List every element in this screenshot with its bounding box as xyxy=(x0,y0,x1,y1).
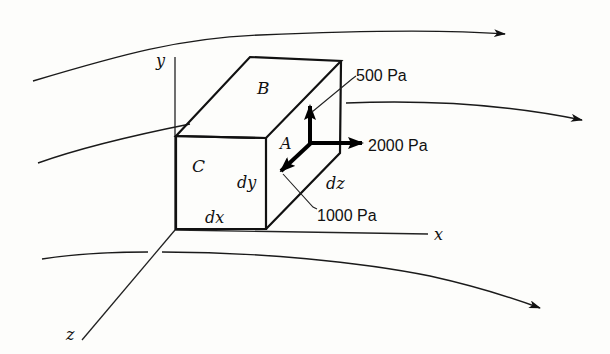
leader-1000 xyxy=(283,174,317,209)
dim-label-width: dx xyxy=(205,208,224,227)
force-label-z: 1000 Pa xyxy=(317,207,377,224)
dim-label-height: dy xyxy=(237,173,257,192)
x-axis xyxy=(175,230,428,234)
face-label-right: A xyxy=(278,134,292,153)
diagram-canvas: B C A dy dx dz y x z 500 Pa 2000 Pa 1000… xyxy=(0,0,610,354)
diagram-svg: B C A dy dx dz y x z 500 Pa 2000 Pa 1000… xyxy=(0,0,610,354)
axis-label-z: z xyxy=(65,325,75,344)
dim-label-depth: dz xyxy=(326,174,345,193)
force-label-y: 500 Pa xyxy=(356,67,407,84)
face-label-front: C xyxy=(192,156,205,176)
streamline-middle-left xyxy=(38,124,190,163)
axis-label-x: x xyxy=(434,225,443,244)
streamline-top xyxy=(33,31,505,81)
z-axis xyxy=(82,230,175,340)
streamline-bottom-right xyxy=(162,252,540,308)
streamlines xyxy=(33,31,582,308)
leader-500 xyxy=(312,76,356,112)
streamline-bottom-left xyxy=(42,252,148,259)
force-arrows xyxy=(281,106,362,171)
force-label-x: 2000 Pa xyxy=(368,137,428,154)
face-label-top: B xyxy=(256,78,270,98)
axis-label-y: y xyxy=(155,51,166,70)
streamline-middle-right xyxy=(346,102,582,120)
axes xyxy=(82,57,428,340)
